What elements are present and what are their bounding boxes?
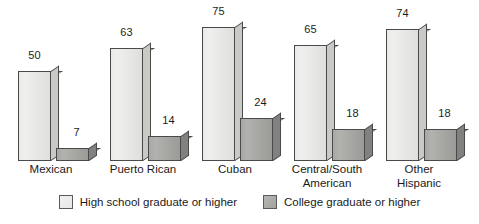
bar-front-face [240, 118, 273, 161]
bar-group-central-south-american: 65 18 Central/South American [284, 0, 370, 190]
bar-side-face [181, 131, 189, 161]
category-label-mexican: Mexican [8, 163, 94, 177]
bar-side-face [365, 124, 373, 161]
bar-group-puerto-rican: 63 14 Puerto Rican [100, 0, 186, 190]
chart-legend: High school graduate or higher College g… [0, 195, 479, 209]
legend-item-highschool: High school graduate or higher [59, 195, 237, 209]
bar-front-face [332, 129, 365, 161]
bar-mexican-college: 7 [56, 148, 89, 161]
bar-mexican-highschool: 50 [18, 71, 51, 161]
value-label-mexican-college: 7 [60, 127, 93, 138]
bar-front-face [386, 29, 419, 161]
bar-group-other-hispanic: 74 18 Other Hispanic [376, 0, 462, 190]
bar-side-face [51, 66, 59, 161]
category-label-cuban: Cuban [192, 163, 278, 177]
category-label-central-south-american: Central/South American [284, 163, 370, 190]
bar-front-face [110, 48, 143, 161]
legend-item-college: College graduate or higher [263, 195, 420, 209]
bar-side-face [457, 124, 465, 161]
bar-puerto-rican-college: 14 [148, 136, 181, 161]
bar-other-hispanic-highschool: 74 [386, 29, 419, 161]
bar-central-south-american-highschool: 65 [294, 45, 327, 161]
bar-cuban-highschool: 75 [202, 27, 235, 161]
legend-label-highschool: High school graduate or higher [80, 196, 237, 209]
light-swatch-icon [59, 195, 73, 209]
value-label-cuban-college: 24 [244, 97, 277, 108]
value-label-puerto-rican-highschool: 63 [110, 27, 143, 38]
bar-central-south-american-college: 18 [332, 129, 365, 161]
value-label-mexican-highschool: 50 [18, 50, 51, 61]
bar-front-face [202, 27, 235, 161]
bar-cuban-college: 24 [240, 118, 273, 161]
bar-front-face [148, 136, 181, 161]
bar-side-face [89, 143, 97, 161]
bar-front-face [56, 148, 89, 161]
legend-label-college: College graduate or higher [284, 196, 420, 209]
value-label-other-hispanic-college: 18 [428, 108, 461, 119]
bar-front-face [424, 129, 457, 161]
bar-other-hispanic-college: 18 [424, 129, 457, 161]
bar-chart: 50 7 Mexican 63 14 Puerto Rican [0, 0, 479, 190]
value-label-puerto-rican-college: 14 [152, 115, 185, 126]
value-label-other-hispanic-highschool: 74 [386, 8, 419, 19]
bar-group-cuban: 75 24 Cuban [192, 0, 278, 190]
value-label-central-south-american-college: 18 [336, 108, 369, 119]
category-label-puerto-rican: Puerto Rican [100, 163, 186, 177]
bar-group-mexican: 50 7 Mexican [8, 0, 94, 190]
bar-front-face [294, 45, 327, 161]
bar-puerto-rican-highschool: 63 [110, 48, 143, 161]
bar-front-face [18, 71, 51, 161]
value-label-central-south-american-highschool: 65 [294, 24, 327, 35]
category-label-other-hispanic: Other Hispanic [376, 163, 462, 190]
bar-side-face [273, 113, 281, 161]
value-label-cuban-highschool: 75 [202, 6, 235, 17]
dark-swatch-icon [263, 195, 277, 209]
